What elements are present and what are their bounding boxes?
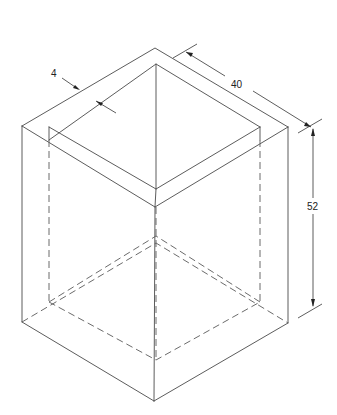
dimension-label-height: 52	[307, 201, 319, 212]
outer-vertical-edges	[22, 126, 288, 401]
dimension-height: 52	[298, 128, 322, 318]
inner-top-opening	[49, 64, 260, 207]
dimension-wall-thickness: 4	[51, 68, 116, 113]
outer-top-rim	[22, 48, 288, 207]
outer-bottom-edges	[22, 322, 288, 401]
isometric-box-drawing: 4 40 52	[0, 0, 337, 415]
dimension-label-thickness: 4	[51, 68, 57, 79]
dimension-label-width: 40	[231, 79, 243, 90]
